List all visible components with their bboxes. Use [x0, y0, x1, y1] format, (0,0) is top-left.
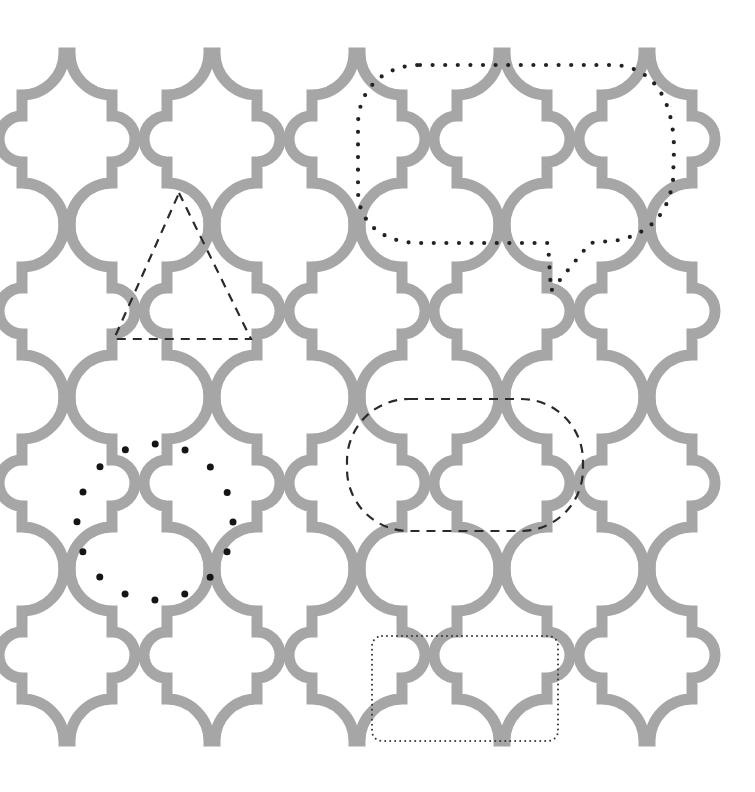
lantern-tile [434, 569, 570, 741]
lantern-tile [144, 225, 280, 397]
lantern-tile [0, 397, 135, 569]
lantern-tile [289, 225, 425, 397]
lantern-tile [144, 53, 280, 225]
trellis-pattern [0, 0, 755, 792]
lantern-tile [289, 569, 425, 741]
lantern-tile [289, 397, 425, 569]
lantern-tile [579, 397, 715, 569]
pattern-canvas: speech bubble triangle circle rounded re… [0, 0, 755, 792]
lantern-tile [579, 53, 715, 225]
lantern-tile [434, 225, 570, 397]
lantern-tile [0, 569, 135, 741]
lantern-tile [434, 397, 570, 569]
lantern-tile [144, 569, 280, 741]
lantern-tile [579, 569, 715, 741]
lantern-tile [0, 53, 135, 225]
lantern-tile [579, 225, 715, 397]
lantern-tile [144, 397, 280, 569]
lantern-tile [434, 53, 570, 225]
lantern-tile [289, 53, 425, 225]
lantern-tile [0, 225, 135, 397]
